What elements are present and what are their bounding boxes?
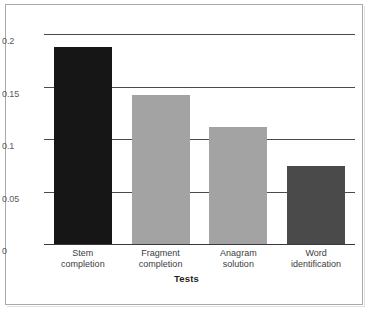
y-tick-label: 0.15	[2, 89, 19, 99]
x-tick-label: Anagram solution	[200, 248, 278, 270]
plot-area: 00.050.10.150.2	[44, 34, 355, 244]
figure-container: Percentage improvement over control 00.0…	[0, 0, 373, 315]
bar	[54, 47, 112, 244]
bar	[132, 95, 190, 244]
y-tick-label: 0	[2, 246, 7, 256]
axis-line-x	[44, 244, 355, 245]
x-tick-label: Stem completion	[44, 248, 122, 270]
x-axis-title: Tests	[0, 273, 373, 284]
bar	[209, 127, 267, 244]
y-tick-label: 0.05	[2, 194, 19, 204]
x-tick-label: Fragment completion	[122, 248, 200, 270]
x-tick-label: Word identification	[277, 248, 355, 270]
bar	[287, 166, 345, 244]
y-tick-label: 0.2	[2, 36, 14, 46]
y-tick-label: 0.1	[2, 141, 14, 151]
bar-series	[44, 34, 355, 244]
